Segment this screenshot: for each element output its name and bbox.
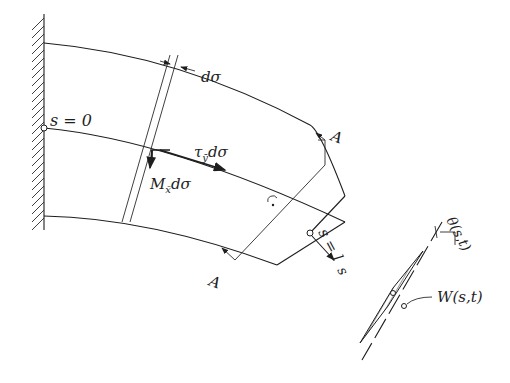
element-strip [122, 55, 195, 222]
label-m-x: Mx̄dσ [149, 175, 192, 195]
label-s-zero: s = 0 [50, 111, 92, 130]
label-section-a-top: A [327, 126, 345, 147]
beam-bottom-edge [44, 216, 277, 265]
label-w: W(s,t) [437, 288, 483, 306]
section-line-a [222, 133, 325, 260]
label-tau-y: τȳdσ [194, 143, 229, 163]
label-section-a-bottom: A [205, 271, 223, 292]
origin-point [41, 125, 47, 131]
curved-beam-diagram: dσ s = 0 τȳdσ Mx̄dσ A A s = l s θ(s,t) W… [0, 0, 510, 383]
fixed-wall [32, 14, 44, 230]
label-s-axis: s [334, 264, 352, 278]
label-d-sigma: dσ [201, 68, 222, 86]
label-s-end: s = l [314, 225, 346, 264]
label-theta: θ(s,t) [443, 214, 474, 254]
